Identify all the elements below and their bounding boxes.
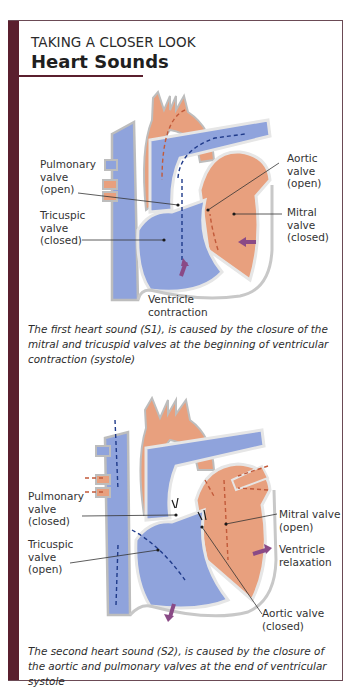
label-s2-pulmonary-valve: Pulmonary valve (closed) <box>28 490 84 528</box>
caption-s2: The second heart sound (S2), is caused b… <box>28 644 340 689</box>
label-s1-tricuspid-valve: Tricuspic valve (closed) <box>40 209 85 247</box>
vena-cava <box>112 122 138 300</box>
label-s1-pulmonary-valve: Pulmonary valve (open) <box>40 158 96 196</box>
caption-s1: The first heart sound (S1), is caused by… <box>28 322 340 367</box>
label-s1-aortic-valve: Aortic valve (open) <box>287 152 321 190</box>
label-s2-aortic-valve: Aortic valve (closed) <box>262 607 324 632</box>
page-title: Heart Sounds <box>31 51 169 72</box>
section-kicker: TAKING A CLOSER LOOK <box>31 34 196 50</box>
label-s2-ventricle-relaxation: Ventricle relaxation <box>279 543 332 568</box>
title-underline <box>19 75 143 77</box>
label-s2-mitral-valve: Mitral valve (open) <box>279 508 340 533</box>
label-s1-ventricle-contraction: Ventricle contraction <box>148 293 208 318</box>
label-s2-tricuspid-valve: Tricuspic valve (open) <box>28 538 73 576</box>
label-s1-mitral-valve: Mitral valve (closed) <box>287 206 329 244</box>
